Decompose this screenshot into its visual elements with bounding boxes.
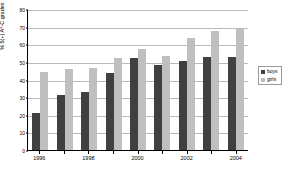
bar-group xyxy=(150,10,174,150)
x-tick-cell: 2002 xyxy=(174,151,199,169)
x-tick-cell: 1998 xyxy=(76,151,101,169)
x-tick-label: 2004 xyxy=(230,156,242,162)
bar-group xyxy=(126,10,150,150)
bar-groups xyxy=(28,10,248,150)
legend: boys girls xyxy=(258,66,282,85)
legend-label-boys: boys xyxy=(267,69,278,74)
y-axis-title-container: % 5(+) A*-C grades xyxy=(4,0,18,151)
x-tick-mark xyxy=(162,151,163,154)
x-tick-mark xyxy=(113,151,114,154)
plot-area: 01020304050607080 xyxy=(27,10,248,151)
x-tick-mark xyxy=(211,151,212,154)
y-tick-label: 0 xyxy=(22,149,25,154)
y-tick-label: 60 xyxy=(19,43,25,48)
y-tick-label: 40 xyxy=(19,78,25,83)
x-tick-mark xyxy=(39,151,40,154)
bar-group xyxy=(101,10,125,150)
bar-chart: % 5(+) A*-C grades 01020304050607080 199… xyxy=(0,0,286,173)
x-axis: 19961998200020022004 xyxy=(27,151,248,169)
x-tick-mark xyxy=(64,151,65,154)
bar-boys xyxy=(32,113,40,150)
bar-girls xyxy=(114,58,122,150)
bar-group xyxy=(77,10,101,150)
x-tick-label: 1996 xyxy=(33,156,45,162)
x-tick-label: 2000 xyxy=(131,156,143,162)
x-tick-cell xyxy=(101,151,126,169)
bar-group xyxy=(52,10,76,150)
bar-girls xyxy=(187,38,195,150)
bar-boys xyxy=(228,57,236,150)
bar-boys xyxy=(106,73,114,150)
x-tick-mark xyxy=(88,151,89,154)
y-tick-label: 10 xyxy=(19,131,25,136)
bar-boys xyxy=(81,92,89,150)
bar-boys xyxy=(154,65,162,150)
legend-label-girls: girls xyxy=(267,77,276,82)
x-tick-mark xyxy=(138,151,139,154)
legend-item-boys: boys xyxy=(261,69,278,74)
bar-group xyxy=(199,10,223,150)
x-tick-cell: 1996 xyxy=(27,151,52,169)
bar-girls xyxy=(65,69,73,150)
bar-group xyxy=(175,10,199,150)
bar-girls xyxy=(40,72,48,150)
y-tick-label: 30 xyxy=(19,96,25,101)
bar-girls xyxy=(236,29,244,150)
bar-boys xyxy=(179,61,187,150)
x-tick-cell xyxy=(150,151,175,169)
x-tick-cell: 2004 xyxy=(224,151,249,169)
x-tick-cell: 2000 xyxy=(125,151,150,169)
bar-boys xyxy=(57,95,65,150)
y-tick-label: 50 xyxy=(19,60,25,65)
y-tick-label: 80 xyxy=(19,8,25,13)
y-axis-title: % 5(+) A*-C grades xyxy=(0,0,6,50)
bar-group xyxy=(224,10,248,150)
bar-boys xyxy=(203,57,211,150)
bar-girls xyxy=(89,68,97,150)
x-tick-mark xyxy=(236,151,237,154)
bar-girls xyxy=(138,49,146,150)
x-tick-cell xyxy=(199,151,224,169)
legend-swatch-boys xyxy=(261,70,265,74)
x-tick-label: 2002 xyxy=(181,156,193,162)
x-tick-mark xyxy=(187,151,188,154)
bar-girls xyxy=(211,31,219,150)
y-tick-label: 20 xyxy=(19,113,25,118)
legend-item-girls: girls xyxy=(261,77,278,82)
bar-boys xyxy=(130,58,138,150)
x-tick-cell xyxy=(52,151,77,169)
legend-swatch-girls xyxy=(261,78,265,82)
y-tick-label: 70 xyxy=(19,25,25,30)
bar-group xyxy=(28,10,52,150)
x-tick-label: 1998 xyxy=(82,156,94,162)
bar-girls xyxy=(162,56,170,150)
